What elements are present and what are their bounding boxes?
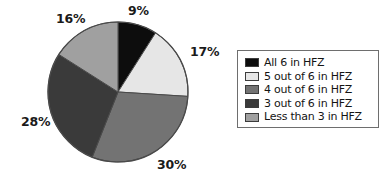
legend-item-all-6: All 6 in HFZ: [245, 56, 378, 70]
legend-swatch-icon-less-than-3: [245, 113, 259, 122]
legend-swatch-icon-3-of-6: [245, 99, 259, 108]
pie-slice-label-4-of-6: 30%: [157, 157, 186, 172]
legend-label-5-of-6: 5 out of 6 in HFZ: [264, 70, 352, 84]
pie-slice-label-5-of-6: 17%: [190, 44, 219, 59]
pie-slice-label-all-6: 9%: [128, 3, 149, 18]
legend-label-3-of-6: 3 out of 6 in HFZ: [264, 97, 352, 111]
legend-swatch-icon-4-of-6: [245, 85, 259, 94]
legend-swatch-icon-all-6: [245, 58, 259, 67]
legend-label-all-6: All 6 in HFZ: [264, 56, 324, 70]
legend-item-less-than-3: Less than 3 in HFZ: [245, 110, 378, 124]
legend-swatch-icon-5-of-6: [245, 72, 259, 81]
pie-slice-label-3-of-6: 28%: [21, 114, 50, 129]
chart-legend: All 6 in HFZ 5 out of 6 in HFZ 4 out of …: [237, 50, 379, 128]
legend-label-4-of-6: 4 out of 6 in HFZ: [264, 83, 352, 97]
legend-label-less-than-3: Less than 3 in HFZ: [264, 110, 362, 124]
legend-item-4-of-6: 4 out of 6 in HFZ: [245, 83, 378, 97]
legend-item-5-of-6: 5 out of 6 in HFZ: [245, 70, 378, 84]
pie-chart-figure: 9% 17% 30% 28% 16% All 6 in HFZ 5 out of…: [0, 0, 387, 181]
pie-slice-label-less-than-3: 16%: [56, 11, 85, 26]
pie-slice-group: [48, 22, 188, 162]
legend-item-3-of-6: 3 out of 6 in HFZ: [245, 97, 378, 111]
